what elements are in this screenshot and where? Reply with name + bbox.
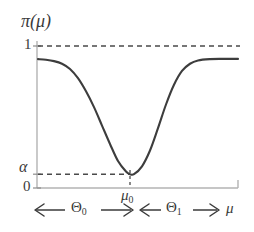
x-axis-label: μ	[226, 201, 234, 216]
power-curve	[38, 59, 238, 175]
theta0-label-base: Θ	[71, 199, 82, 215]
power-function-figure: π(μ) 1 α 0 μ0 Θ0 Θ1 μ	[0, 0, 254, 232]
theta1-label: Θ1	[166, 200, 182, 217]
y-axis-title: π(μ)	[21, 12, 51, 30]
x-tick-label-mu0: μ0	[121, 188, 133, 205]
x-tick-label-mu0-base: μ	[121, 187, 129, 203]
y-tick-label-zero: 0	[23, 179, 31, 194]
y-tick-label-one: 1	[24, 37, 32, 52]
y-tick-label-alpha: α	[19, 159, 27, 175]
theta1-label-base: Θ	[166, 199, 177, 215]
theta0-label: Θ0	[71, 200, 87, 217]
theta0-label-subscript: 0	[82, 206, 87, 217]
x-tick-label-mu0-subscript: 0	[129, 194, 134, 205]
theta1-label-subscript: 1	[177, 206, 182, 217]
